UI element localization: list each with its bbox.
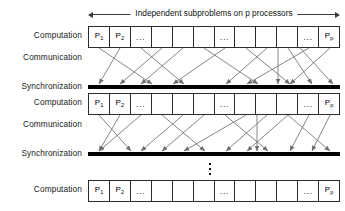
communication-arrow-layer: [0, 0, 345, 211]
message-arrows-group-1: [99, 48, 333, 84]
diagram-canvas: Independent subproblems on p processors …: [0, 0, 345, 211]
message-arrows-group-2: [99, 115, 330, 151]
